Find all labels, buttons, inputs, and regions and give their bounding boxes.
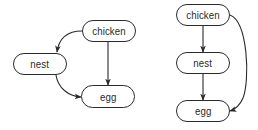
node-label: egg bbox=[195, 105, 211, 117]
node-label: egg bbox=[100, 91, 116, 103]
node-label: chicken bbox=[92, 25, 125, 37]
node-left-nest: nest bbox=[13, 53, 67, 75]
node-label: nest bbox=[194, 57, 213, 69]
node-label: nest bbox=[31, 58, 50, 70]
node-right-egg: egg bbox=[176, 100, 230, 122]
edge-left-nest-to-egg bbox=[56, 75, 81, 97]
node-right-chicken: chicken bbox=[176, 4, 230, 26]
node-left-egg: egg bbox=[81, 85, 135, 108]
node-left-chicken: chicken bbox=[82, 20, 136, 42]
diagram-canvas: chicken nest egg chicken nest egg bbox=[0, 0, 258, 130]
edge-right-chicken-to-egg-bypass bbox=[230, 15, 247, 111]
edge-left-chicken-to-nest bbox=[57, 31, 82, 52]
node-right-nest: nest bbox=[176, 52, 230, 74]
node-label: chicken bbox=[186, 9, 219, 21]
